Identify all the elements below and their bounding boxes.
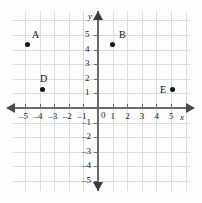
point-a-label: A (32, 30, 39, 40)
point-d-dot[interactable] (40, 87, 45, 92)
y-tick-label: 4 (85, 45, 90, 54)
point-e-dot[interactable] (170, 87, 175, 92)
coordinate-plane: –5–4–3–2–11234554321–1–2–3–4–5 x y 0 A B… (0, 0, 202, 203)
x-tick-label: –3 (48, 112, 57, 121)
tick-layer: –5–4–3–2–11234554321–1–2–3–4–5 (0, 0, 202, 203)
x-tick (142, 104, 143, 109)
x-tick (69, 104, 70, 109)
y-tick (94, 93, 99, 94)
y-tick-label: –5 (82, 176, 91, 185)
y-tick (94, 166, 99, 167)
x-tick (113, 104, 114, 109)
x-tick (156, 104, 157, 109)
x-axis-label: x (180, 113, 184, 122)
x-tick-label: –5 (19, 112, 28, 121)
y-tick-label: 3 (85, 59, 90, 68)
x-tick-label: –4 (34, 112, 43, 121)
y-tick (94, 137, 99, 138)
x-tick-label: 5 (169, 112, 174, 121)
point-d-label: D (40, 74, 47, 84)
y-tick (94, 35, 99, 36)
y-tick (94, 152, 99, 153)
x-tick-label: –2 (63, 112, 72, 121)
x-tick (83, 104, 84, 109)
y-tick (94, 123, 99, 124)
x-tick-label: 3 (140, 112, 145, 121)
point-b-dot[interactable] (110, 42, 115, 47)
point-a-dot[interactable] (25, 42, 30, 47)
y-tick (94, 181, 99, 182)
x-tick (127, 104, 128, 109)
point-b-label: B (119, 30, 126, 40)
x-tick-label: 1 (111, 112, 116, 121)
y-tick-label: –3 (82, 147, 91, 156)
x-tick-label: 2 (125, 112, 130, 121)
y-tick-label: –4 (82, 161, 91, 170)
y-tick (94, 79, 99, 80)
point-e-label: E (160, 85, 166, 95)
y-tick (94, 50, 99, 51)
y-tick-label: –2 (82, 132, 91, 141)
y-tick-label: –1 (82, 118, 91, 127)
y-tick-label: 2 (85, 74, 90, 83)
y-axis-label: y (88, 12, 92, 21)
x-tick (25, 104, 26, 109)
x-tick (171, 104, 172, 109)
x-tick (54, 104, 55, 109)
y-tick (94, 64, 99, 65)
origin-label: 0 (101, 111, 106, 120)
y-tick-label: 1 (85, 88, 90, 97)
x-tick-label: 4 (154, 112, 159, 121)
y-tick-label: 5 (85, 30, 90, 39)
x-tick (40, 104, 41, 109)
